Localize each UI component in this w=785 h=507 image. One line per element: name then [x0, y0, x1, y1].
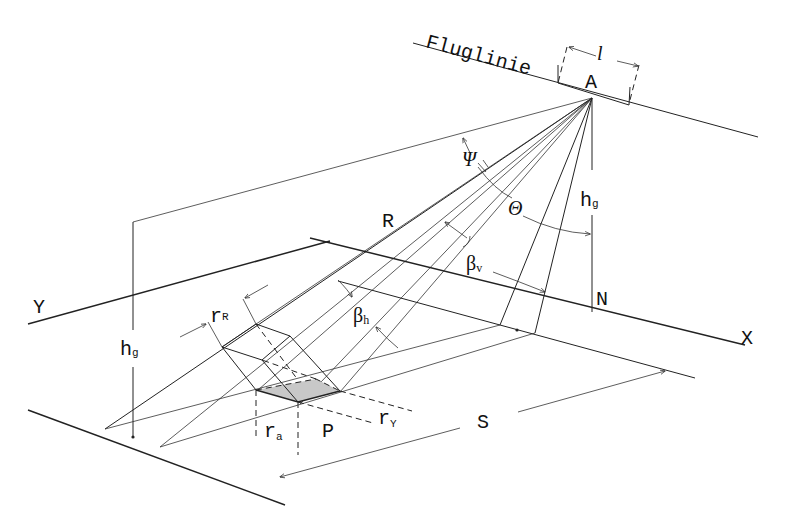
antenna-label: A — [585, 71, 597, 94]
depression-angle-label: Ψ — [462, 148, 478, 170]
azimuth-resolution-label: ra — [264, 420, 283, 443]
flight-height-left-label: hg — [120, 338, 139, 361]
x-axis-label: X — [741, 327, 753, 350]
nadir-label: N — [596, 288, 608, 311]
range-resolution-label: rR — [210, 305, 229, 328]
point-label: P — [322, 420, 334, 443]
flight-height-right-label: hg — [580, 189, 599, 212]
sar-geometry-diagram: Fluglinie l A Ψ Θ R βv βh hg hg N X Y rR… — [0, 0, 785, 507]
vertical-beamwidth-label: βv — [466, 252, 482, 275]
near-range-line — [338, 281, 695, 378]
y-axis-label: Y — [33, 296, 45, 319]
slant-range-label: R — [382, 210, 394, 233]
beam-rays — [105, 98, 592, 447]
resolution-cell — [256, 379, 340, 402]
y-axis-line — [28, 241, 330, 324]
ground-range-label: S — [477, 411, 489, 434]
ground-range-dimension — [280, 371, 665, 477]
horizontal-beamwidth-label: βh — [353, 304, 369, 327]
ground-baseline — [28, 410, 285, 505]
look-angle-label: Θ — [508, 197, 522, 219]
flight-line-label: Fluglinie — [423, 31, 533, 81]
antenna-length-label: l — [597, 42, 603, 64]
ground-range-resolution-label: rY — [378, 407, 397, 430]
flight-height-left-line — [131, 222, 134, 439]
